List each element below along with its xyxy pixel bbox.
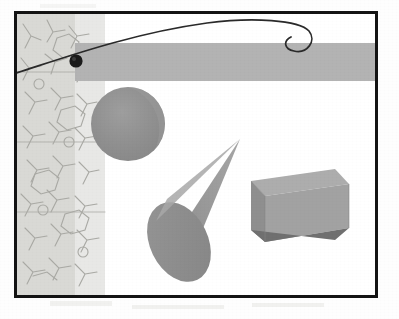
scan-smudge	[252, 303, 324, 307]
position-marker-highlight	[72, 57, 76, 61]
scan-smudge	[50, 301, 112, 306]
position-marker-dot	[69, 54, 82, 67]
scene-stage	[0, 0, 399, 319]
trajectory-arc-layer	[17, 14, 375, 295]
picture-frame	[14, 11, 378, 298]
scene-canvas	[17, 14, 375, 295]
trajectory-arc	[17, 20, 312, 74]
scan-smudge	[132, 305, 224, 309]
scan-smudge	[40, 4, 96, 8]
